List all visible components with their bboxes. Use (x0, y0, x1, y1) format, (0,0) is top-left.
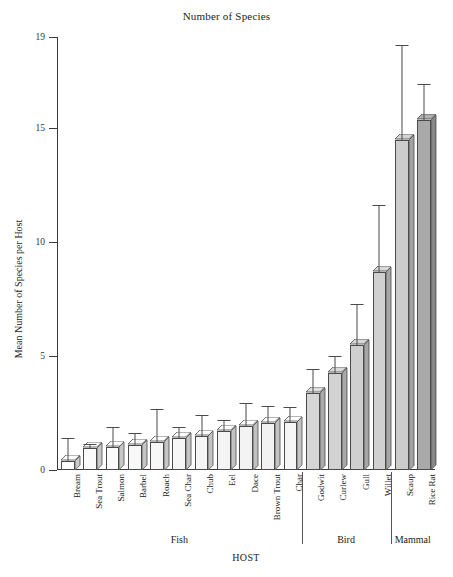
x-axis-label: Sea Char (183, 474, 193, 507)
y-axis-tick (49, 470, 57, 471)
bar[interactable] (128, 445, 142, 470)
y-axis-tick (49, 356, 57, 357)
bar[interactable] (373, 272, 387, 470)
bar[interactable] (261, 423, 275, 470)
error-bar-cap (262, 406, 275, 407)
bar[interactable] (61, 461, 75, 470)
bar-top-face (195, 430, 214, 436)
bar-top-face (106, 441, 125, 447)
x-axis-title: HOST (57, 552, 435, 563)
x-axis-label: Eel (227, 474, 237, 486)
bar-side-face (164, 437, 170, 470)
bar[interactable] (195, 436, 209, 470)
bar[interactable] (306, 393, 320, 470)
error-bar-cap (328, 356, 341, 357)
bar[interactable] (417, 120, 431, 470)
group-separator (391, 472, 392, 544)
y-axis-tick-label: 10 (36, 237, 46, 247)
chart-title: Number of Species (0, 10, 453, 22)
plot-area: 05101519 (57, 37, 435, 470)
error-bar-stem (90, 445, 91, 448)
bar[interactable] (395, 140, 409, 470)
bar-slot (395, 37, 409, 470)
group-label: Fish (171, 534, 188, 545)
bar-slot (128, 37, 142, 470)
error-bar-cap (239, 403, 252, 404)
error-bar-cap (417, 84, 430, 85)
bar[interactable] (217, 431, 231, 470)
bar[interactable] (172, 438, 186, 470)
bar-top-face (61, 455, 80, 461)
x-axis-label: Scaup (405, 474, 415, 496)
error-bar-cap (151, 409, 164, 410)
bar-slot (239, 37, 253, 470)
y-axis-tick (49, 37, 57, 38)
error-bar-stem (379, 206, 380, 272)
bar-top-face (128, 439, 147, 445)
bar-slot (261, 37, 275, 470)
y-axis-tick-label: 15 (36, 123, 46, 133)
x-axis-label: Chub (205, 474, 215, 494)
bar[interactable] (106, 447, 120, 470)
error-bar-cap (173, 427, 186, 428)
bar-side-face (409, 135, 415, 470)
bar-top-face (373, 266, 392, 272)
error-bar-cap (106, 427, 119, 428)
bar-side-face (297, 417, 303, 470)
error-bar-cap (284, 407, 297, 408)
bar-side-face (320, 388, 326, 470)
bar-top-face (284, 416, 303, 422)
group-separator (302, 472, 303, 544)
bar[interactable] (328, 373, 342, 470)
x-axis-label: Dace (250, 474, 260, 492)
bar-slot (217, 37, 231, 470)
bar-side-face (342, 368, 348, 470)
bar-slot (328, 37, 342, 470)
error-bar-cap (373, 205, 386, 206)
error-bar-stem (268, 407, 269, 423)
bar-top-face (217, 425, 236, 431)
error-bar-stem (179, 428, 180, 438)
error-bar-stem (290, 408, 291, 422)
group-label: Bird (337, 534, 355, 545)
bar-top-face (150, 436, 169, 442)
bar[interactable] (83, 448, 97, 470)
x-axis-group-labels: FishBirdMammal (57, 534, 435, 550)
error-bar-stem (157, 410, 158, 442)
error-bar-cap (84, 444, 97, 445)
bar[interactable] (239, 426, 253, 470)
x-axis-label: Barbel (138, 474, 148, 498)
bar-slot (61, 37, 75, 470)
bar-slot (306, 37, 320, 470)
bar[interactable] (350, 345, 364, 470)
bar[interactable] (284, 422, 298, 470)
error-bar-stem (401, 46, 402, 139)
x-axis-label: Godwit (316, 474, 326, 501)
error-bar-cap (128, 433, 141, 434)
error-bar-cap (195, 415, 208, 416)
error-bar-stem (334, 357, 335, 373)
error-bar-cap (395, 45, 408, 46)
bar-slot (172, 37, 186, 470)
error-bar-stem (357, 305, 358, 345)
y-axis-tick-label: 19 (36, 32, 46, 42)
bar-slot (350, 37, 364, 470)
error-bar-cap (62, 438, 75, 439)
bar-slot (195, 37, 209, 470)
y-axis-title: Mean Number of Species per Host (13, 219, 24, 358)
x-axis-label: Salmon (116, 474, 126, 502)
error-bar-stem (312, 370, 313, 393)
bar-side-face (386, 267, 392, 470)
bar-slot (106, 37, 120, 470)
y-axis-tick-label: 5 (40, 351, 45, 361)
bar-slot (83, 37, 97, 470)
error-bar-stem (68, 439, 69, 461)
bar-series (57, 37, 435, 470)
bar-slot (417, 37, 431, 470)
bar-slot (150, 37, 164, 470)
x-axis-label: Brown Trout (272, 474, 282, 520)
bar-side-face (253, 421, 259, 470)
bar[interactable] (150, 442, 164, 470)
y-axis-tick (49, 242, 57, 243)
y-axis-tick (49, 128, 57, 129)
